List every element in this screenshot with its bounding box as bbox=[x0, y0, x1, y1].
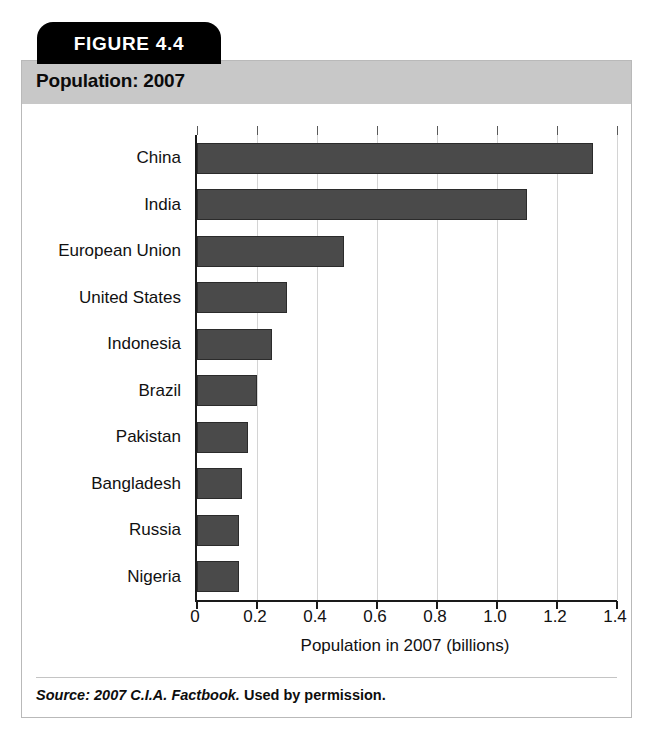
bar-slot bbox=[197, 282, 617, 313]
y-axis-tick-label: Indonesia bbox=[22, 321, 190, 368]
source-note: Source: 2007 C.I.A. Factbook. Used by pe… bbox=[36, 687, 386, 703]
bar-slot bbox=[197, 515, 617, 546]
bar-slot bbox=[197, 189, 617, 220]
x-axis-tick-label: 0.2 bbox=[243, 607, 267, 627]
y-axis-tick-label: Pakistan bbox=[22, 414, 190, 461]
x-axis-tick-label: 0.6 bbox=[363, 607, 387, 627]
bar-nigeria bbox=[197, 561, 239, 592]
y-axis-tick-label: United States bbox=[22, 275, 190, 322]
axis-tick-top bbox=[317, 126, 318, 135]
figure-number-tab: FIGURE 4.4 bbox=[37, 22, 221, 64]
y-axis-tick-label: Nigeria bbox=[22, 554, 190, 601]
bar-india bbox=[197, 189, 527, 220]
source-divider bbox=[36, 677, 617, 678]
plot-top-rule bbox=[195, 126, 617, 127]
plot-box bbox=[195, 135, 617, 602]
x-axis-tick-label: 0 bbox=[190, 607, 199, 627]
axis-tick-top bbox=[617, 126, 618, 135]
y-axis-tick-label: Brazil bbox=[22, 368, 190, 415]
bar-brazil bbox=[197, 375, 257, 406]
x-axis-tick-label: 0.4 bbox=[303, 607, 327, 627]
x-axis-tick-label: 0.8 bbox=[423, 607, 447, 627]
bar-indonesia bbox=[197, 329, 272, 360]
source-permission: Used by permission. bbox=[240, 687, 386, 703]
y-axis-tick-label: China bbox=[22, 135, 190, 182]
figure-number-label: FIGURE 4.4 bbox=[37, 22, 221, 64]
bar-slot bbox=[197, 329, 617, 360]
bar-pakistan bbox=[197, 422, 248, 453]
gridline bbox=[617, 135, 618, 600]
bar-russia bbox=[197, 515, 239, 546]
x-axis-tick-label: 1.2 bbox=[543, 607, 567, 627]
chart-title: Population: 2007 bbox=[36, 70, 185, 92]
figure-card: Population: 2007 ChinaIndiaEuropean Unio… bbox=[21, 60, 632, 718]
axis-tick-top bbox=[377, 126, 378, 135]
y-axis-tick-label: Russia bbox=[22, 507, 190, 554]
bars-layer bbox=[197, 135, 617, 600]
bar-slot bbox=[197, 468, 617, 499]
y-axis-tick-label: European Union bbox=[22, 228, 190, 275]
bar-united-states bbox=[197, 282, 287, 313]
bar-slot bbox=[197, 236, 617, 267]
axis-tick-top bbox=[437, 126, 438, 135]
y-axis-tick-label: India bbox=[22, 182, 190, 229]
axis-tick-top bbox=[497, 126, 498, 135]
chart-plot-region: ChinaIndiaEuropean UnionUnited StatesInd… bbox=[22, 104, 631, 677]
bar-slot bbox=[197, 143, 617, 174]
x-axis-title: Population in 2007 (billions) bbox=[195, 636, 615, 656]
source-citation: Source: 2007 C.I.A. Factbook. bbox=[36, 687, 240, 703]
bar-slot bbox=[197, 375, 617, 406]
y-axis-tick-label: Bangladesh bbox=[22, 461, 190, 508]
bar-european-union bbox=[197, 236, 344, 267]
bar-china bbox=[197, 143, 593, 174]
figure-title-band: Population: 2007 bbox=[22, 61, 631, 104]
bar-slot bbox=[197, 561, 617, 592]
bar-slot bbox=[197, 422, 617, 453]
x-axis-tick-labels: 00.20.40.60.81.01.21.4 bbox=[195, 607, 615, 631]
axis-tick-top bbox=[257, 126, 258, 135]
x-axis-tick-label: 1.0 bbox=[483, 607, 507, 627]
axis-tick-top bbox=[557, 126, 558, 135]
axis-tick-top bbox=[197, 126, 198, 135]
x-axis-tick-label: 1.4 bbox=[603, 607, 627, 627]
bar-bangladesh bbox=[197, 468, 242, 499]
y-axis-labels: ChinaIndiaEuropean UnionUnited StatesInd… bbox=[22, 135, 190, 600]
